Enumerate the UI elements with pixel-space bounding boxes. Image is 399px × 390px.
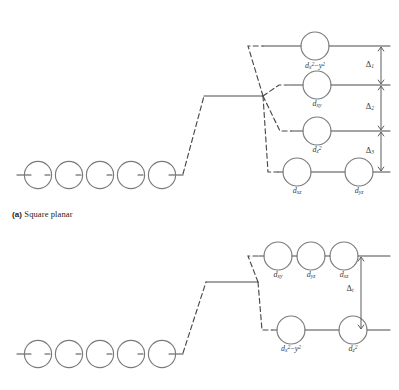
- td-lower-level: [272, 316, 390, 344]
- splitting-label-delta-3: Δ3: [366, 145, 374, 155]
- sp-level-4: [278, 158, 390, 186]
- sp-delta-arrows: [378, 47, 384, 171]
- splitting-label-delta-1: Δ1: [366, 59, 374, 69]
- td-delta-arrow: [358, 257, 364, 329]
- td-upper-level: [259, 242, 390, 270]
- sp-free-ion-level: [17, 161, 183, 188]
- orbital-label-dx2-y2-sp: dx2−y2: [305, 61, 325, 70]
- caption-square-planar: (a) Square planar: [12, 209, 73, 219]
- orbital-label-dx2-y2-td: dx2−y2: [281, 344, 301, 353]
- orbital-label-dxz-td: dxz: [340, 270, 349, 279]
- orbital-label-dz2-td: dz2: [349, 344, 358, 353]
- caption-tag: (a): [12, 210, 22, 219]
- crystal-field-splitting-diagram: [0, 0, 399, 390]
- orbital-label-dxy-sp: dxy: [313, 99, 322, 108]
- splitting-label-delta-t: Δt: [346, 283, 353, 293]
- sp-level-1: [263, 32, 390, 60]
- splitting-label-delta-2: Δ2: [366, 101, 374, 111]
- orbital-label-dyz-sp: dyz: [355, 186, 364, 195]
- orbital-label-dz2-sp: dz2: [313, 145, 322, 154]
- orbital-label-dxz-sp: dxz: [293, 186, 302, 195]
- orbital-label-dxy-td: dxy: [274, 270, 283, 279]
- sp-level-2: [290, 71, 390, 99]
- orbital-label-dyz-td: dyz: [307, 270, 316, 279]
- caption-text: Square planar: [24, 209, 72, 219]
- sp-level-3: [291, 117, 390, 145]
- td-free-ion-level: [17, 340, 183, 367]
- sp-splitting-connectors: [248, 46, 291, 172]
- td-splitting-connectors: [248, 256, 272, 330]
- figure-canvas: dx2−y2 dxy dz2 dxz dyz Δ1 Δ2 Δ3 (a) Squa…: [0, 0, 399, 390]
- td-barycenter-connector: [183, 282, 258, 353]
- sp-barycenter-connector: [183, 96, 263, 174]
